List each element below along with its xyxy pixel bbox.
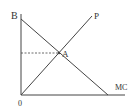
- label-a: A: [62, 49, 69, 59]
- label-origin: 0: [18, 99, 22, 108]
- label-mc: MC: [115, 83, 127, 92]
- economics-diagram: B P A MC 0: [0, 0, 137, 108]
- label-b: B: [11, 10, 18, 21]
- label-p: P: [94, 11, 99, 21]
- point-a: [58, 52, 60, 54]
